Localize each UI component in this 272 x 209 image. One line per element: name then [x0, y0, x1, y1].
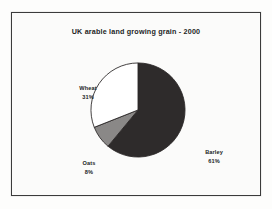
pie-label-oats-name: Oats	[83, 160, 96, 166]
screenshot-root: UK arable land growing grain - 2000 Whea…	[0, 0, 272, 209]
pie-chart	[89, 61, 187, 159]
chart-frame: UK arable land growing grain - 2000 Whea…	[11, 12, 261, 196]
chart-title: UK arable land growing grain - 2000	[12, 27, 260, 36]
pie-label-oats: Oats 8%	[70, 159, 108, 176]
pie-label-barley: Barley 61%	[194, 148, 234, 165]
pie-label-oats-percent: 8%	[70, 168, 108, 177]
pie-chart-svg	[89, 61, 187, 159]
pie-label-barley-name: Barley	[205, 149, 223, 155]
pie-label-barley-percent: 61%	[194, 157, 234, 166]
pie-label-wheat-percent: 31%	[68, 93, 108, 102]
pie-label-wheat: Wheat 31%	[68, 84, 108, 101]
pie-label-wheat-name: Wheat	[79, 85, 96, 91]
